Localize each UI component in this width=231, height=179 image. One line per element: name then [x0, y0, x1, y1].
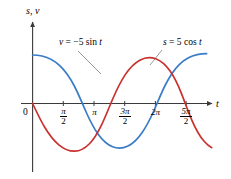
- x-tick-label-5pi-over-2: 5π 2: [176, 107, 196, 127]
- x-tick-label-pi-over-2: π 2: [55, 107, 72, 127]
- x-tick-numerator: 5π: [180, 107, 191, 116]
- y-axis-label: s, v: [26, 6, 39, 16]
- x-tick-label-pi: π: [86, 108, 103, 117]
- y-axis-label-v: v: [35, 5, 39, 16]
- velocity-argument: t: [97, 37, 102, 47]
- position-equation-label: s = 5 cos t: [163, 38, 202, 48]
- x-tick-numerator: 3π: [119, 107, 130, 116]
- velocity-curve: [33, 58, 212, 152]
- velocity-equals: = −5: [63, 37, 86, 47]
- x-tick-denominator: 2: [60, 116, 67, 126]
- x-axis-label: t: [216, 99, 219, 109]
- x-tick-label-0: 0: [23, 108, 28, 118]
- x-tick-value: 2π: [151, 107, 160, 117]
- velocity-leader-line: [78, 51, 101, 74]
- velocity-function: sin: [86, 37, 97, 47]
- position-function: cos: [184, 37, 197, 47]
- figure-container: s, v t v = −5 sin t s = 5 cos t 0 π 2 π …: [0, 0, 231, 179]
- plot-canvas: [0, 0, 231, 179]
- x-tick-numerator: π: [60, 107, 67, 116]
- x-tick-value: π: [92, 107, 97, 117]
- position-curve: [33, 54, 207, 148]
- x-tick-denominator: 2: [119, 116, 130, 126]
- x-tick-denominator: 2: [180, 116, 191, 126]
- position-argument: t: [197, 37, 202, 47]
- position-equals: = 5: [167, 37, 184, 47]
- x-tick-label-2pi: 2π: [146, 108, 165, 117]
- velocity-equation-label: v = −5 sin t: [59, 38, 102, 48]
- x-tick-label-3pi-over-2: 3π 2: [115, 107, 135, 127]
